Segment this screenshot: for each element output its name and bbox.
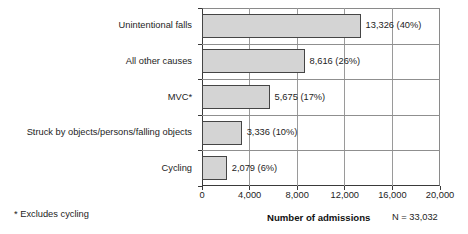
y-axis-tick [198,186,202,187]
x-axis-tick-label: 12,000 [331,190,359,201]
value-label: 8,616 (26%) [310,56,361,67]
value-label: 2,079 (6%) [232,163,277,174]
total-n-label: N = 33,032 [392,212,438,223]
category-label: Cycling [0,163,198,174]
x-axis-tick-label: 16,000 [378,190,406,201]
value-label: 5,675 (17%) [275,92,326,103]
row-separator [202,115,440,116]
chart-figure: 04,0008,00012,00016,00020,000Unintention… [0,0,468,234]
value-label: 13,326 (40%) [366,20,422,31]
x-axis-tick-label: 8,000 [286,190,309,201]
gridline-vertical [392,8,393,186]
bar [202,85,270,109]
x-axis-tick-label: 0 [199,190,204,201]
category-label: MVC* [0,92,198,103]
row-separator [202,79,440,80]
x-axis-tick-label: 20,000 [426,190,454,201]
x-axis-tick-label: 4,000 [238,190,261,201]
y-axis-tick [198,79,202,80]
row-separator [202,44,440,45]
bar [202,121,242,145]
bar [202,49,305,73]
category-label: Struck by objects/persons/falling object… [0,127,198,138]
x-axis-title: Number of admissions [267,212,370,223]
bar [202,14,361,38]
category-label: All other causes [0,56,198,67]
category-label: Unintentional falls [0,20,198,31]
y-axis-tick [198,115,202,116]
bar [202,156,227,180]
y-axis-tick [198,8,202,9]
footnote: * Excludes cycling [14,209,89,220]
value-label: 3,336 (10%) [247,127,298,138]
y-axis-tick [198,150,202,151]
row-separator [202,150,440,151]
y-axis-tick [198,44,202,45]
